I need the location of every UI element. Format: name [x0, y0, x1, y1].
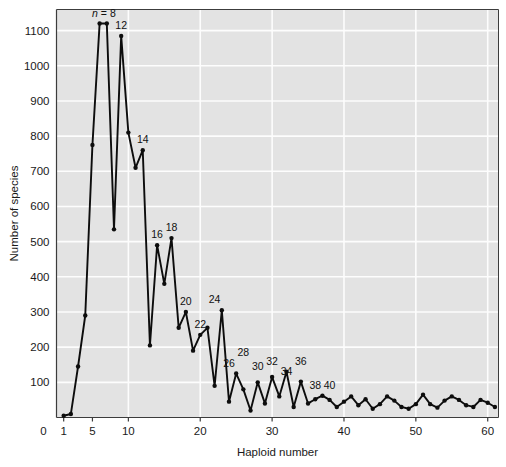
data-point-marker: [133, 166, 137, 170]
data-point-marker: [478, 398, 482, 402]
annotation-label-18: 18: [166, 221, 178, 233]
data-point-marker: [155, 243, 159, 247]
data-point-marker: [234, 371, 238, 375]
data-point-marker: [69, 412, 73, 416]
y-tick-label-900: 900: [30, 95, 49, 107]
y-tick-label-700: 700: [30, 165, 49, 177]
data-point-marker: [112, 227, 116, 231]
data-point-marker: [349, 394, 353, 398]
data-point-marker: [184, 310, 188, 314]
y-tick-label-100: 100: [30, 376, 49, 388]
annotation-label-16: 16: [151, 228, 163, 240]
data-point-marker: [76, 364, 80, 368]
data-point-marker: [97, 21, 101, 25]
y-tick-label-600: 600: [30, 200, 49, 212]
data-point-marker: [176, 326, 180, 330]
data-point-marker: [306, 401, 310, 405]
data-point-marker: [141, 148, 145, 152]
data-point-marker: [256, 380, 260, 384]
data-point-marker: [105, 21, 109, 25]
annotation-label-34: 34: [281, 365, 293, 377]
data-point-marker: [313, 397, 317, 401]
data-point-marker: [435, 405, 439, 409]
x-tick-label-60: 60: [481, 425, 494, 437]
annotation-label-28: 28: [238, 346, 250, 358]
data-point-marker: [486, 401, 490, 405]
y-tick-label-1100: 1100: [25, 25, 50, 37]
data-point-marker: [471, 405, 475, 409]
x-tick-label-0: 0: [40, 425, 46, 437]
data-point-marker: [277, 394, 281, 398]
annotation-label-20: 20: [180, 295, 192, 307]
chart-root: 1002003004005006007008009001000110001510…: [8, 7, 499, 458]
annotation-label-26: 26: [223, 357, 235, 369]
data-point-marker: [241, 387, 245, 391]
y-tick-label-200: 200: [30, 341, 49, 353]
x-tick-label-50: 50: [409, 425, 422, 437]
data-point-marker: [450, 394, 454, 398]
data-point-marker: [320, 393, 324, 397]
data-point-marker: [457, 398, 461, 402]
data-point-marker: [335, 405, 339, 409]
data-point-marker: [90, 143, 94, 147]
data-point-marker: [464, 403, 468, 407]
data-point-marker: [399, 405, 403, 409]
data-point-marker: [119, 34, 123, 38]
data-point-marker: [378, 402, 382, 406]
data-point-marker: [371, 407, 375, 411]
data-point-marker: [342, 399, 346, 403]
data-point-marker: [220, 308, 224, 312]
data-point-marker: [248, 408, 252, 412]
data-point-marker: [198, 333, 202, 337]
x-tick-label-1: 1: [60, 425, 66, 437]
data-point-marker: [299, 379, 303, 383]
y-tick-label-300: 300: [30, 306, 49, 318]
annotation-label-12: 12: [115, 19, 127, 31]
data-point-marker: [356, 403, 360, 407]
data-point-marker: [442, 398, 446, 402]
annotation-label-22: 22: [194, 318, 206, 330]
x-tick-label-20: 20: [194, 425, 207, 437]
data-point-marker: [148, 343, 152, 347]
annotation-label-14: 14: [137, 133, 149, 145]
annotation-label-24: 24: [209, 293, 221, 305]
data-point-marker: [212, 384, 216, 388]
annotation-label-38: 38: [309, 379, 321, 391]
data-point-marker: [327, 398, 331, 402]
data-point-marker: [421, 392, 425, 396]
data-point-marker: [414, 402, 418, 406]
annotation-label-30: 30: [252, 360, 264, 372]
data-point-marker: [291, 405, 295, 409]
data-point-marker: [406, 407, 410, 411]
annotation-label-40: 40: [324, 379, 336, 391]
annotation-label-32: 32: [266, 355, 278, 367]
y-tick-label-800: 800: [30, 130, 49, 142]
data-point-marker: [428, 402, 432, 406]
annotation-label-n-8: n = 8: [92, 7, 116, 19]
data-point-marker: [263, 401, 267, 405]
x-tick-label-5: 5: [89, 425, 95, 437]
y-tick-label-1000: 1000: [24, 60, 50, 72]
data-point-marker: [385, 394, 389, 398]
figure-panel: 1002003004005006007008009001000110001510…: [0, 0, 506, 467]
data-point-marker: [162, 282, 166, 286]
x-tick-label-30: 30: [266, 425, 279, 437]
x-axis-title: Haploid number: [237, 446, 318, 458]
data-point-marker: [83, 313, 87, 317]
data-point-marker: [169, 236, 173, 240]
y-tick-label-400: 400: [30, 271, 49, 283]
data-point-marker: [392, 398, 396, 402]
data-point-marker: [126, 130, 130, 134]
data-point-marker: [493, 405, 497, 409]
y-axis-title: Number of species: [8, 165, 20, 261]
annotation-label-36: 36: [295, 355, 307, 367]
data-point-marker: [191, 348, 195, 352]
x-tick-label-10: 10: [122, 425, 135, 437]
data-point-marker: [227, 399, 231, 403]
x-tick-label-40: 40: [338, 425, 351, 437]
data-point-marker: [61, 414, 65, 418]
data-point-marker: [363, 397, 367, 401]
data-point-marker: [270, 375, 274, 379]
y-tick-label-500: 500: [30, 236, 49, 248]
haploid-number-line-chart: 1002003004005006007008009001000110001510…: [0, 0, 506, 467]
